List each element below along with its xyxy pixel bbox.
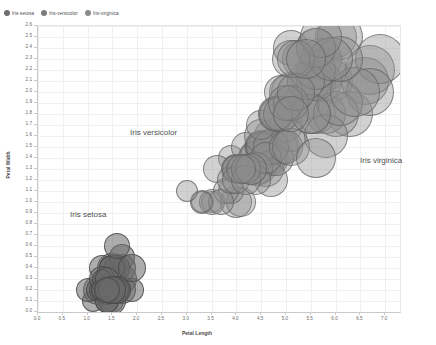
x-axis-tick-label: 5.5 xyxy=(298,316,322,321)
y-axis-tick-label: 2.1 xyxy=(10,77,32,82)
y-axis-tick-label: 0.4 xyxy=(10,264,32,269)
y-axis-tick-label: 0.3 xyxy=(10,275,32,280)
x-axis-tick-mark xyxy=(136,312,137,315)
x-axis-tick-label: 1.0 xyxy=(75,316,99,321)
circle-marker-icon xyxy=(85,10,91,16)
x-axis-tick-mark xyxy=(87,312,88,315)
y-axis-tick-label: 1.8 xyxy=(10,110,32,115)
legend-item-label: Iris-versicolor xyxy=(49,11,78,16)
x-axis-tick-mark xyxy=(359,312,360,315)
x-axis-tick-label: 6.0 xyxy=(323,316,347,321)
y-axis-tick-label: 1.6 xyxy=(10,132,32,137)
x-axis-tick-label: 7.0 xyxy=(372,316,396,321)
y-axis-tick-mark xyxy=(34,234,37,235)
gridline-horizontal xyxy=(38,235,400,236)
y-axis-tick-label: 2.3 xyxy=(10,55,32,60)
y-axis-tick-mark xyxy=(34,245,37,246)
x-axis-tick-mark xyxy=(211,312,212,315)
y-axis-tick-mark xyxy=(34,212,37,213)
y-axis-tick-label: 1.3 xyxy=(10,165,32,170)
legend-item-label: Iris-virginica xyxy=(93,11,119,16)
x-axis-tick-mark xyxy=(260,312,261,315)
legend-item-2[interactable]: Iris-virginica xyxy=(85,10,119,16)
chart-legend: Iris-setosaIris-versicolorIris-virginica xyxy=(4,7,119,19)
y-axis-tick-label: 1.1 xyxy=(10,187,32,192)
bubble-chart-figure: Iris-setosaIris-versicolorIris-virginica… xyxy=(0,0,436,345)
y-axis-tick-label: 0.9 xyxy=(10,209,32,214)
y-axis-tick-mark xyxy=(34,201,37,202)
y-axis-tick-label: 0.1 xyxy=(10,297,32,302)
circle-marker-icon xyxy=(41,10,47,16)
x-axis-tick-label: 0.5 xyxy=(50,316,74,321)
y-axis-tick-mark xyxy=(34,36,37,37)
y-axis-tick-label: 2.2 xyxy=(10,66,32,71)
x-axis-tick-mark xyxy=(335,312,336,315)
y-axis-tick-label: 1.9 xyxy=(10,99,32,104)
y-axis-tick-label: 2.4 xyxy=(10,44,32,49)
y-axis-tick-mark xyxy=(34,146,37,147)
x-axis-tick-mark xyxy=(111,312,112,315)
x-axis-tick-mark xyxy=(235,312,236,315)
y-axis-tick-mark xyxy=(34,80,37,81)
y-axis-tick-mark xyxy=(34,267,37,268)
y-axis-tick-mark xyxy=(34,256,37,257)
y-axis-tick-mark xyxy=(34,124,37,125)
plot-area xyxy=(37,25,401,313)
data-bubble xyxy=(273,96,309,132)
data-bubble xyxy=(286,39,326,79)
y-axis-tick-label: 1.7 xyxy=(10,121,32,126)
x-axis-tick-label: 2.0 xyxy=(124,316,148,321)
plot-annotation-0: Iris versicolor xyxy=(130,128,177,137)
y-axis-tick-mark xyxy=(34,278,37,279)
x-axis-tick-mark xyxy=(285,312,286,315)
y-axis-tick-label: 1.2 xyxy=(10,176,32,181)
x-axis-tick-label: 4.5 xyxy=(248,316,272,321)
x-axis-tick-mark xyxy=(186,312,187,315)
y-axis-tick-label: 2.6 xyxy=(10,22,32,27)
x-axis-tick-label: 1.5 xyxy=(99,316,123,321)
x-axis-tick-label: 5.0 xyxy=(273,316,297,321)
y-axis-tick-mark xyxy=(34,300,37,301)
x-axis-tick-mark xyxy=(310,312,311,315)
gridline-horizontal xyxy=(38,224,400,225)
y-axis-tick-mark xyxy=(34,113,37,114)
gridline-horizontal xyxy=(38,147,400,148)
y-axis-tick-mark xyxy=(34,179,37,180)
x-axis-tick-label: 0.0 xyxy=(25,316,49,321)
x-axis-tick-label: 2.5 xyxy=(149,316,173,321)
y-axis-tick-label: 0.5 xyxy=(10,253,32,258)
circle-marker-icon xyxy=(4,10,10,16)
y-axis-tick-label: 0.8 xyxy=(10,220,32,225)
y-axis-tick-label: 2.0 xyxy=(10,88,32,93)
y-axis-tick-mark xyxy=(34,69,37,70)
legend-item-label: Iris-setosa xyxy=(12,11,34,16)
plot-annotation-1: Iris virginica xyxy=(360,156,402,165)
y-axis-tick-mark xyxy=(34,135,37,136)
data-bubble xyxy=(296,138,336,178)
x-axis-tick-label: 3.5 xyxy=(199,316,223,321)
y-axis-tick-mark xyxy=(34,289,37,290)
y-axis-tick-mark xyxy=(34,58,37,59)
y-axis-tick-mark xyxy=(34,25,37,26)
y-axis-tick-label: 1.4 xyxy=(10,154,32,159)
y-axis-tick-label: 2.5 xyxy=(10,33,32,38)
plot-annotation-2: Iris setosa xyxy=(70,210,106,219)
y-axis-tick-mark xyxy=(34,47,37,48)
gridline-horizontal xyxy=(38,246,400,247)
x-axis-tick-label: 4.0 xyxy=(223,316,247,321)
y-axis-tick-mark xyxy=(34,168,37,169)
legend-item-1[interactable]: Iris-versicolor xyxy=(41,10,78,16)
legend-item-0[interactable]: Iris-setosa xyxy=(4,10,34,16)
y-axis-tick-label: 0.2 xyxy=(10,286,32,291)
x-axis-tick-label: 3.0 xyxy=(174,316,198,321)
y-axis-tick-label: 1.0 xyxy=(10,198,32,203)
y-axis-tick-label: 0.0 xyxy=(10,308,32,313)
x-axis-tick-label: 6.5 xyxy=(347,316,371,321)
x-axis-tick-mark xyxy=(37,312,38,315)
y-axis-tick-label: 1.5 xyxy=(10,143,32,148)
y-axis-tick-mark xyxy=(34,223,37,224)
y-axis-tick-mark xyxy=(34,102,37,103)
gridline-horizontal xyxy=(38,312,400,313)
x-axis-tick-mark xyxy=(161,312,162,315)
x-axis-tick-mark xyxy=(384,312,385,315)
